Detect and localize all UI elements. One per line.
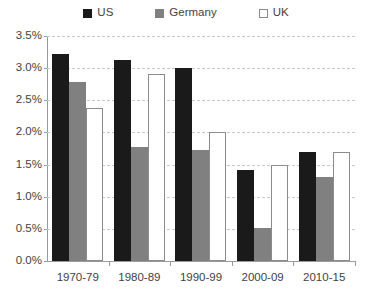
legend-label-us: US (97, 7, 113, 19)
bar-uk[interactable] (148, 74, 165, 261)
bar-germany[interactable] (69, 82, 86, 261)
bar-uk[interactable] (271, 165, 288, 261)
bar-germany[interactable] (131, 147, 148, 261)
legend-item-us[interactable]: US (83, 7, 113, 19)
bar-germany[interactable] (316, 177, 333, 261)
x-axis-tick (109, 261, 110, 266)
y-axis-tick-label: 1.0% (2, 191, 42, 203)
y-axis-tick-label: 3.5% (2, 30, 42, 42)
bar-us[interactable] (175, 68, 192, 262)
bar-group (170, 36, 232, 261)
x-axis-tick (170, 261, 171, 266)
legend-item-uk[interactable]: UK (259, 7, 289, 19)
chart-legend: US Germany UK (0, 2, 372, 24)
bar-us[interactable] (237, 170, 254, 261)
y-axis-tick-label: 2.0% (2, 127, 42, 139)
y-axis-tick-label: 3.0% (2, 62, 42, 74)
legend-label-uk: UK (273, 7, 289, 19)
bar-group (232, 36, 294, 261)
plot-area (47, 36, 355, 261)
y-axis-tick-label: 0.5% (2, 223, 42, 235)
x-axis-tick-label: 2010-15 (284, 272, 364, 284)
legend-item-germany[interactable]: Germany (155, 7, 216, 19)
bar-germany[interactable] (254, 228, 271, 261)
x-axis-baseline (47, 261, 355, 262)
bar-group (293, 36, 355, 261)
bar-group (109, 36, 171, 261)
x-axis-tick (355, 261, 356, 266)
bar-group (47, 36, 109, 261)
y-axis-tick-label: 1.5% (2, 159, 42, 171)
bar-uk[interactable] (209, 132, 226, 261)
bar-us[interactable] (52, 54, 69, 261)
legend-swatch-us-icon (83, 9, 92, 18)
legend-swatch-germany-icon (155, 9, 164, 18)
x-axis-tick (293, 261, 294, 266)
bar-us[interactable] (299, 152, 316, 261)
bar-uk[interactable] (86, 108, 103, 261)
bar-us[interactable] (114, 60, 131, 261)
y-axis-tick-label: 2.5% (2, 95, 42, 107)
legend-label-germany: Germany (169, 7, 216, 19)
x-axis-tick (232, 261, 233, 266)
bar-chart: US Germany UK 0.0%0.5%1.0%1.5%2.0%2.5%3.… (0, 0, 372, 298)
legend-swatch-uk-icon (259, 9, 268, 18)
y-axis-tick-label: 0.0% (2, 255, 42, 267)
bar-uk[interactable] (333, 152, 350, 261)
bar-germany[interactable] (192, 150, 209, 261)
